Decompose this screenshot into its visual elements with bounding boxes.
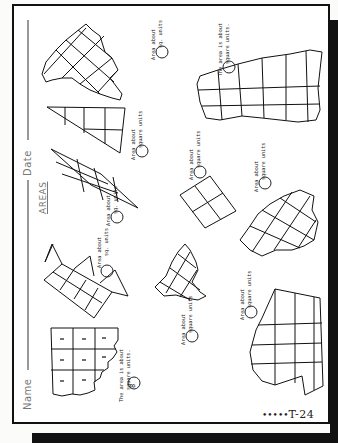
label-2: Area aboutsq. units xyxy=(96,228,109,268)
page-code-text: T-24 xyxy=(289,408,315,421)
label-5: Area aboutsquare units xyxy=(130,111,143,160)
answer-circles xyxy=(0,0,338,443)
label-9: Area aboutsquare units xyxy=(239,271,252,320)
label-1: The area is aboutsquare units. xyxy=(118,349,131,402)
label-8: Area aboutsquare units xyxy=(253,143,266,192)
label-4: Area aboutsq. units xyxy=(105,186,118,226)
label-10: The area is aboutsquare units. xyxy=(217,23,230,76)
page-code: •••••T-24 xyxy=(262,408,314,421)
worksheet-page: Name Date AREAS xyxy=(0,0,338,443)
label-7: Area aboutsq. units xyxy=(150,20,163,60)
label-3: Area aboutsquare units xyxy=(180,296,193,345)
label-6: Area aboutsquare units xyxy=(188,131,201,180)
page-code-dots: ••••• xyxy=(262,410,289,420)
